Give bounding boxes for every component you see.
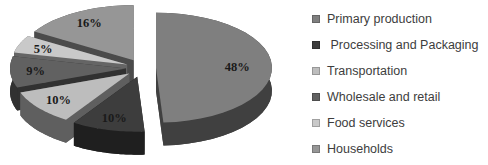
legend-item-processing-and-packaging: Processing and Packaging — [312, 38, 478, 52]
legend-label: Primary production — [327, 12, 432, 26]
pie-slice-label: 5% — [34, 42, 53, 56]
legend-swatch-households — [312, 145, 320, 153]
legend-item-food-services: Food services — [312, 116, 478, 130]
pie-slice-label: 16% — [77, 16, 102, 30]
legend-label: Wholesale and retail — [327, 90, 440, 104]
legend-label: Transportation — [327, 64, 407, 78]
legend-label: Processing and Packaging — [327, 38, 478, 52]
legend-item-wholesale-and-retail: Wholesale and retail — [312, 90, 478, 104]
legend-label: Food services — [327, 116, 405, 130]
pie-slice-label: 10% — [102, 111, 127, 125]
legend-item-primary-production: Primary production — [312, 12, 478, 26]
legend-swatch-primary-production — [312, 15, 320, 23]
legend-item-transportation: Transportation — [312, 64, 478, 78]
pie-slice-label: 10% — [46, 93, 71, 107]
legend-swatch-wholesale-and-retail — [312, 93, 320, 101]
legend-label: Households — [327, 142, 393, 156]
pie-chart-figure: 16%5%48%9%10%10% Primary production Proc… — [0, 0, 488, 165]
legend-item-households: Households — [312, 142, 478, 156]
legend-swatch-food-services — [312, 119, 320, 127]
pie-slice-label: 9% — [26, 64, 45, 78]
exploded-3d-pie-chart: 16%5%48%9%10%10% — [0, 0, 280, 165]
legend-swatch-processing-and-packaging — [312, 41, 320, 49]
chart-legend: Primary production Processing and Packag… — [312, 0, 478, 165]
legend-swatch-transportation — [312, 67, 320, 75]
pie-slice-label: 48% — [225, 60, 250, 74]
